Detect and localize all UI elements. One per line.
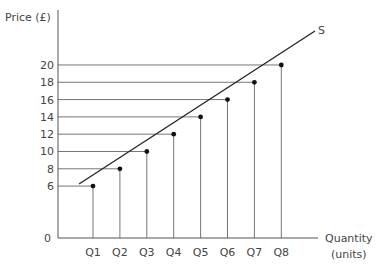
y-tick-labels: 68101214161820 <box>40 59 54 193</box>
data-point <box>225 97 230 102</box>
x-tick-label: Q8 <box>273 246 289 259</box>
y-tick-label: 18 <box>40 76 54 89</box>
data-point <box>171 132 176 137</box>
supply-curve <box>79 31 315 184</box>
y-tick-label: 8 <box>47 163 54 176</box>
series-label: S <box>318 24 325 37</box>
origin-label: 0 <box>44 232 51 245</box>
y-tick-label: 20 <box>40 59 54 72</box>
x-axis-title-line2: (units) <box>331 248 367 261</box>
data-point <box>91 184 96 189</box>
data-point <box>118 166 123 171</box>
y-tick-label: 16 <box>40 94 54 107</box>
data-point <box>279 63 284 68</box>
x-tick-labels: Q1Q2Q3Q4Q5Q6Q7Q8 <box>85 246 289 259</box>
x-tick-label: Q4 <box>166 246 182 259</box>
data-point <box>144 149 149 154</box>
y-tick-label: 12 <box>40 128 54 141</box>
x-tick-label: Q1 <box>85 246 101 259</box>
supply-chart: 68101214161820 Q1Q2Q3Q4Q5Q6Q7Q8 Price (£… <box>0 0 377 272</box>
data-point <box>252 80 257 85</box>
x-tick-label: Q5 <box>193 246 209 259</box>
x-tick-label: Q6 <box>220 246 236 259</box>
guide-lines <box>58 65 281 238</box>
x-tick-label: Q7 <box>247 246 263 259</box>
y-axis-title: Price (£) <box>5 11 51 24</box>
x-tick-label: Q2 <box>112 246 128 259</box>
y-tick-label: 10 <box>40 145 54 158</box>
x-tick-label: Q3 <box>139 246 155 259</box>
x-axis-title-line1: Quantity <box>325 232 373 245</box>
y-tick-label: 6 <box>47 180 54 193</box>
y-tick-label: 14 <box>40 111 54 124</box>
data-point <box>198 114 203 119</box>
